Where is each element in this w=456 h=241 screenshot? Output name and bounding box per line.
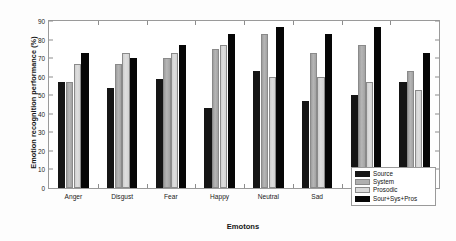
bar <box>302 101 309 188</box>
y-tick-label: 20 <box>38 147 45 154</box>
y-tick-mark <box>435 76 439 77</box>
x-tick-mark <box>147 184 148 188</box>
legend-swatch-icon <box>355 179 370 185</box>
bar <box>107 88 114 188</box>
x-tick-mark <box>342 21 343 25</box>
x-tick-mark <box>98 184 99 188</box>
legend-item: Source <box>355 170 433 178</box>
x-tick-label: Fear <box>164 193 178 200</box>
bar-group <box>399 21 430 188</box>
y-tick-mark <box>435 58 439 59</box>
chart-figure: Emotion recognition performance (%) 0102… <box>0 0 456 241</box>
y-tick-mark <box>49 58 53 59</box>
y-tick-label: 50 <box>38 92 45 99</box>
y-tick-mark <box>435 132 439 133</box>
x-tick-label: Neutral <box>258 193 279 200</box>
legend-item: System <box>355 178 433 186</box>
bar <box>228 34 235 188</box>
x-tick-mark <box>293 184 294 188</box>
legend-label: System <box>373 179 394 185</box>
y-tick-mark <box>49 169 53 170</box>
y-tick-mark <box>49 95 53 96</box>
x-tick-mark <box>244 184 245 188</box>
bar <box>163 58 170 188</box>
y-tick-label: 30 <box>38 129 45 136</box>
bar <box>81 53 88 188</box>
bar-group <box>253 21 284 188</box>
bar <box>66 82 73 188</box>
y-tick-label: 70 <box>38 55 45 62</box>
x-axis-title: Emotons <box>48 222 438 231</box>
bar <box>122 53 129 188</box>
bar <box>310 53 317 188</box>
x-tick-mark <box>244 21 245 25</box>
bar <box>374 27 381 188</box>
legend-label: Prosodic <box>373 187 398 193</box>
y-tick-label: 60 <box>38 73 45 80</box>
bar-group <box>107 21 138 188</box>
x-tick-label: Happy <box>210 193 229 200</box>
x-tick-mark <box>195 21 196 25</box>
legend-item: Sour+Sys+Pros <box>355 195 433 203</box>
x-tick-mark <box>342 184 343 188</box>
bar <box>171 53 178 188</box>
bar-group <box>302 21 333 188</box>
x-tick-mark <box>293 21 294 25</box>
chart-legend: SourceSystemProsodicSour+Sys+Pros <box>351 167 436 206</box>
legend-swatch-icon <box>355 196 370 202</box>
bar <box>179 45 186 188</box>
y-tick-label: 10 <box>38 166 45 173</box>
y-tick-mark <box>49 39 53 40</box>
x-tick-label: Disgust <box>111 193 133 200</box>
y-tick-mark <box>435 39 439 40</box>
y-tick-label: 90 <box>38 18 45 25</box>
bar <box>325 34 332 188</box>
x-tick-mark <box>98 21 99 25</box>
legend-label: Source <box>373 171 393 177</box>
y-tick-mark <box>435 21 439 22</box>
y-tick-label: 80 <box>38 36 45 43</box>
y-tick-mark <box>49 113 53 114</box>
y-tick-mark <box>435 150 439 151</box>
x-tick-mark <box>195 184 196 188</box>
x-tick-mark <box>147 21 148 25</box>
bar <box>74 64 81 188</box>
bar <box>261 34 268 188</box>
bar <box>253 71 260 188</box>
x-tick-mark <box>390 21 391 25</box>
bar-group <box>58 21 89 188</box>
y-tick-label: 40 <box>38 110 45 117</box>
bar-group <box>204 21 235 188</box>
y-tick-mark <box>49 76 53 77</box>
bar <box>220 45 227 188</box>
bar <box>156 79 163 188</box>
bar <box>204 108 211 188</box>
legend-swatch-icon <box>355 187 370 193</box>
legend-swatch-icon <box>355 171 370 177</box>
bar <box>130 58 137 188</box>
y-tick-mark <box>49 132 53 133</box>
y-tick-mark <box>435 95 439 96</box>
y-tick-mark <box>435 113 439 114</box>
bar <box>317 77 324 188</box>
bar <box>269 77 276 188</box>
bar <box>58 82 65 188</box>
plot-area: 0102030405060708090AngerDisgustFearHappy… <box>48 20 440 189</box>
bar <box>276 27 283 188</box>
legend-item: Prosodic <box>355 186 433 194</box>
bar <box>212 49 219 188</box>
x-tick-label: Sad <box>311 193 323 200</box>
bar-group <box>156 21 187 188</box>
bar <box>115 64 122 188</box>
x-tick-label: Anger <box>65 193 83 200</box>
y-tick-mark <box>49 21 53 22</box>
y-tick-label: 0 <box>41 185 45 192</box>
y-tick-mark <box>49 150 53 151</box>
y-axis-title: Emotion recognition performance (%) <box>29 13 38 193</box>
legend-label: Sour+Sys+Pros <box>373 196 417 202</box>
bar-group <box>351 21 382 188</box>
